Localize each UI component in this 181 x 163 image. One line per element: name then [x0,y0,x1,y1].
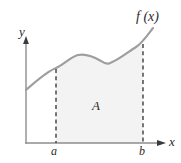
area-label: A [92,99,100,112]
x-axis-arrow-icon [157,140,166,146]
lower-bound-label: a [51,145,57,157]
function-label: f (x) [136,10,159,24]
figure-canvas [0,0,181,163]
upper-bound-label: b [139,145,145,157]
area-under-curve-figure: f (x) y x A a b [0,0,181,163]
y-axis-label: y [19,25,25,38]
x-axis-label: x [169,135,175,148]
